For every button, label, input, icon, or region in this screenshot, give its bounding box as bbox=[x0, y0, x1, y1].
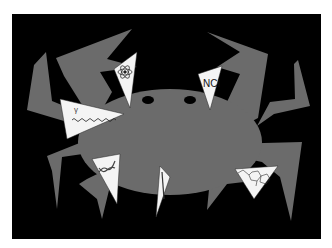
crab-eye-right bbox=[184, 96, 196, 104]
illustration-frame: NCI γ bbox=[12, 14, 321, 239]
crab-illustration bbox=[12, 14, 321, 239]
dart-label-gamma: γ bbox=[74, 105, 78, 114]
crab-eye-left bbox=[142, 96, 154, 104]
dart-label-nci: NCI bbox=[203, 78, 220, 89]
